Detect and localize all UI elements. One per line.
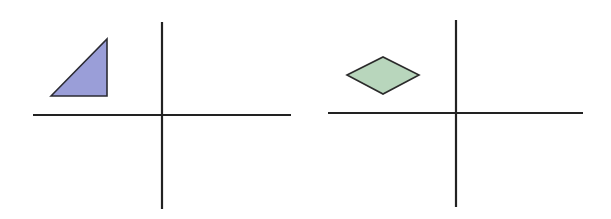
left-coordinate-plane (33, 22, 291, 209)
rhombus-shape (347, 57, 419, 94)
right-triangle-shape (51, 39, 107, 96)
right-coordinate-plane (328, 20, 583, 207)
diagram-canvas (0, 0, 611, 219)
